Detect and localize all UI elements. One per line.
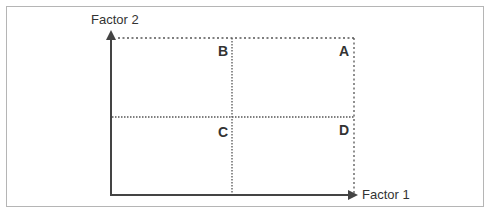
quadrant-label-a: A [339, 43, 349, 59]
x-axis-arrow-icon [348, 190, 358, 200]
quadrant-diagram [0, 0, 490, 215]
quadrant-label-b: B [218, 43, 228, 59]
x-axis-label: Factor 1 [362, 187, 410, 202]
quadrant-label-c: C [218, 124, 228, 140]
y-axis-label: Factor 2 [91, 12, 139, 27]
y-axis-arrow-icon [106, 30, 116, 40]
quadrant-label-d: D [339, 122, 349, 138]
